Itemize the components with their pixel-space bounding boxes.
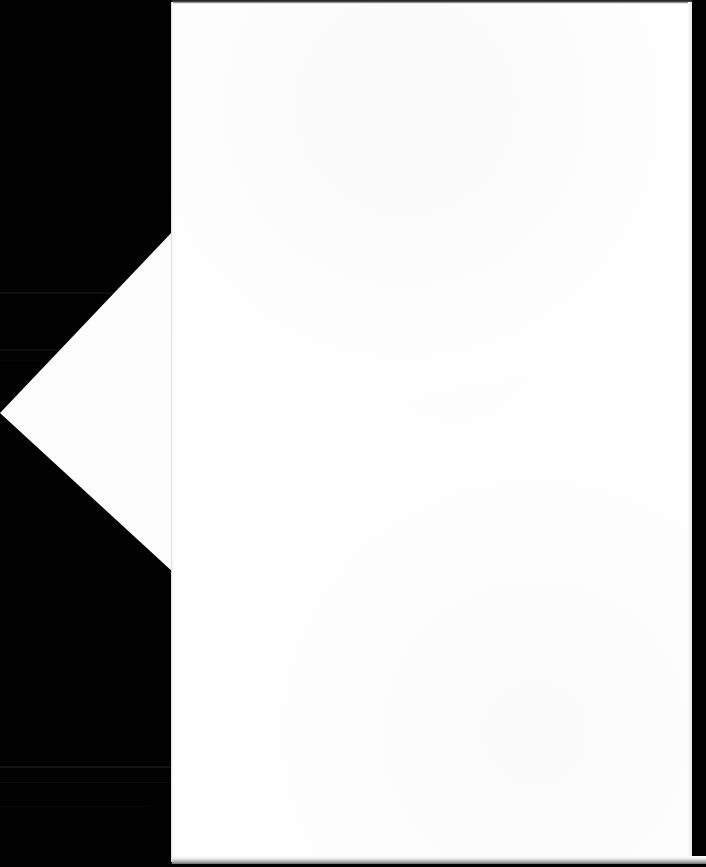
- page-text: [218, 62, 645, 802]
- scanned-document-photograph: [0, 0, 706, 867]
- document-page: [172, 2, 691, 862]
